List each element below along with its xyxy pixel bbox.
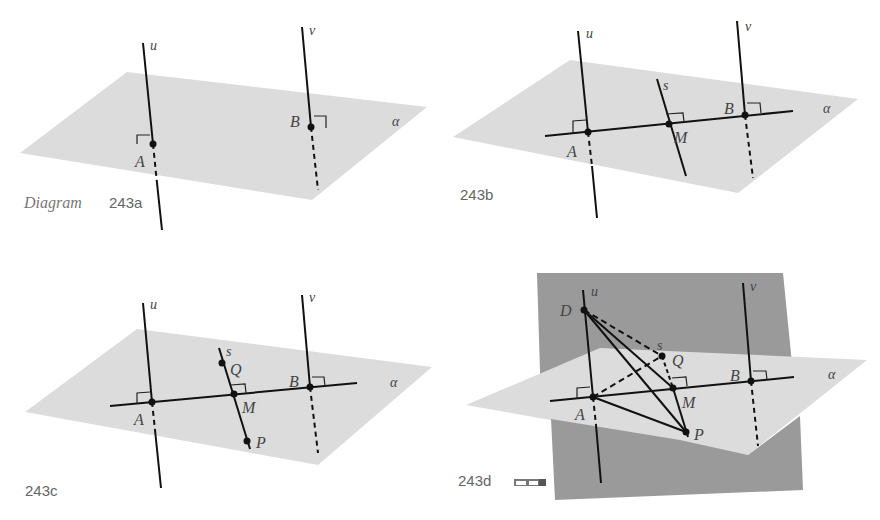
caption-prefix: Diagram <box>23 194 82 212</box>
figure-canvas: u v A B α Diagram 243a u v s A M B α 243… <box>0 0 880 520</box>
label-P: P <box>255 434 266 451</box>
point-Q <box>659 353 666 360</box>
point-M <box>670 385 677 392</box>
diagram-243a: u v A B α Diagram 243a <box>20 23 427 230</box>
point-P <box>683 429 690 436</box>
label-D: D <box>559 302 572 319</box>
label-A: A <box>133 411 144 428</box>
label-A: A <box>566 143 577 160</box>
diagram-243b: u v s A M B α 243b <box>453 19 858 218</box>
label-s: s <box>226 344 232 359</box>
point-D <box>581 307 588 314</box>
label-u: u <box>586 26 593 41</box>
label-B: B <box>290 113 300 130</box>
point-B <box>742 112 749 119</box>
caption-243b: 243b <box>460 186 493 203</box>
point-A <box>150 141 157 148</box>
point-Q <box>219 360 226 367</box>
label-v: v <box>309 290 316 305</box>
diagram-243d: u v s D Q A M B P α 243d <box>458 273 867 500</box>
label-A: A <box>574 406 585 423</box>
plane-alpha <box>453 60 858 193</box>
label-Q: Q <box>672 352 684 369</box>
point-A <box>149 399 156 406</box>
point-P <box>244 438 251 445</box>
point-M <box>666 121 673 128</box>
label-u: u <box>150 38 157 53</box>
point-B <box>307 384 314 391</box>
point-B <box>748 378 755 385</box>
label-alpha: α <box>828 367 836 382</box>
label-u: u <box>591 284 598 299</box>
caption-243d: 243d <box>458 472 491 489</box>
label-s: s <box>663 78 669 93</box>
label-alpha: α <box>390 375 398 390</box>
3d-glasses-icon <box>514 479 546 486</box>
label-Q: Q <box>230 361 242 378</box>
label-s: s <box>657 338 663 353</box>
label-M: M <box>681 394 697 411</box>
point-A <box>590 394 597 401</box>
point-M <box>231 391 238 398</box>
label-B: B <box>724 100 734 117</box>
label-u: u <box>150 297 157 312</box>
label-B: B <box>730 367 740 384</box>
caption-243a: 243a <box>109 194 143 211</box>
label-M: M <box>241 399 257 416</box>
label-v: v <box>745 19 752 34</box>
plane-alpha <box>20 72 427 200</box>
label-P: P <box>693 426 704 443</box>
diagram-243c: u v s Q A M B P α 243c <box>25 290 432 499</box>
label-A: A <box>134 153 145 170</box>
label-B: B <box>289 373 299 390</box>
label-M: M <box>673 129 689 146</box>
point-A <box>585 129 592 136</box>
label-alpha: α <box>823 101 831 116</box>
caption-243c: 243c <box>25 482 58 499</box>
label-v: v <box>309 23 316 38</box>
label-alpha: α <box>392 114 400 129</box>
point-B <box>308 124 315 131</box>
label-v: v <box>750 279 757 294</box>
